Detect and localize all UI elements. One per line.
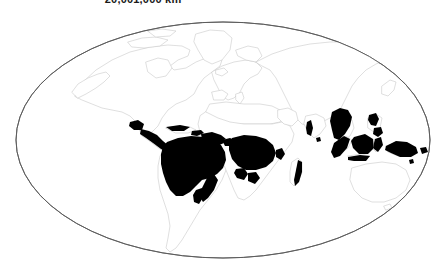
world-map: [0, 0, 448, 274]
map-figure: 20,001,000 km²: [0, 0, 448, 274]
coast-new-zealand: [414, 192, 426, 210]
